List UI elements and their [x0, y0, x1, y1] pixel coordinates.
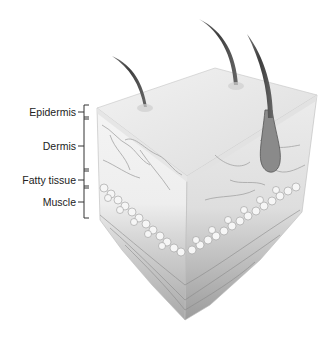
label-dermis: Dermis	[43, 140, 76, 152]
layer-bracket	[78, 105, 89, 218]
skin-block-illustration	[0, 0, 335, 340]
label-fatty-tissue: Fatty tissue	[22, 174, 76, 186]
label-epidermis: Epidermis	[29, 106, 76, 118]
skin-diagram: Epidermis Dermis Fatty tissue Muscle	[0, 0, 335, 340]
label-muscle: Muscle	[43, 196, 76, 208]
